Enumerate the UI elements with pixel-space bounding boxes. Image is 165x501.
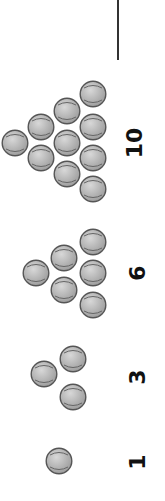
ball-icon <box>59 345 87 373</box>
group-label: 6 <box>127 265 149 280</box>
ball-icon <box>1 129 29 157</box>
ball-icon <box>27 144 55 172</box>
ball-icon <box>27 113 55 141</box>
group-label: 10 <box>124 128 146 159</box>
ball-icon <box>79 80 107 108</box>
ball-icon <box>53 97 81 125</box>
ball-icon <box>79 113 107 141</box>
divider-line <box>117 0 119 60</box>
ball-icon <box>53 129 81 157</box>
ball-icon <box>50 244 78 272</box>
ball-icon <box>79 144 107 172</box>
ball-icon <box>79 175 107 203</box>
ball-icon <box>22 259 50 287</box>
group-label: 1 <box>127 454 149 469</box>
ball-icon <box>59 383 87 411</box>
ball-icon <box>30 360 58 388</box>
ball-icon <box>45 447 73 475</box>
ball-icon <box>50 276 78 304</box>
group-label: 3 <box>127 369 149 384</box>
ball-icon <box>79 259 107 287</box>
ball-icon <box>53 160 81 188</box>
ball-icon <box>79 228 107 256</box>
ball-icon <box>79 291 107 319</box>
